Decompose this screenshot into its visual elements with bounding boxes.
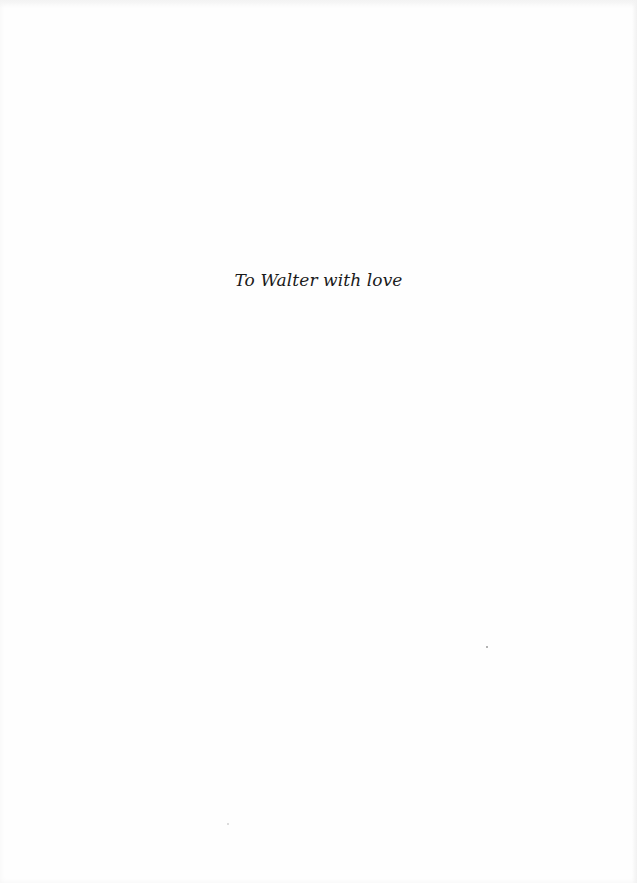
- dedication-text: To Walter with love: [0, 268, 637, 292]
- scan-speck: [486, 646, 488, 648]
- scan-edge-shading-top: [0, 0, 637, 8]
- scan-edge-shading-right: [632, 0, 637, 883]
- book-page: To Walter with love: [0, 0, 637, 883]
- scan-speck: [227, 823, 229, 825]
